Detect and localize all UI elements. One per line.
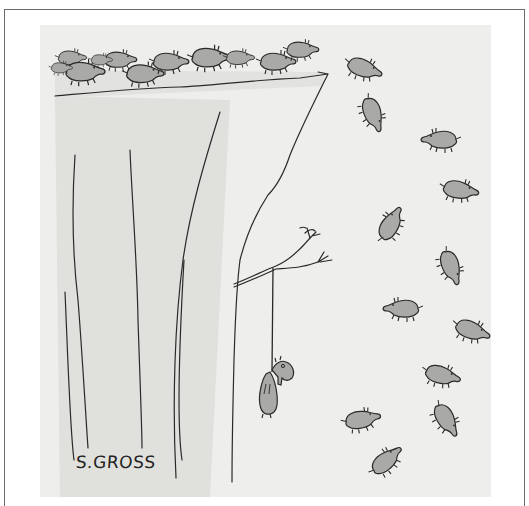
falling-lemmings (339, 50, 494, 484)
cartoon-illustration (0, 0, 529, 506)
cliff-shading (55, 70, 325, 497)
rope (272, 268, 273, 372)
tree-branch (234, 227, 332, 287)
hanging-lemming (259, 356, 293, 418)
artist-signature: S.GROSS (75, 452, 156, 472)
